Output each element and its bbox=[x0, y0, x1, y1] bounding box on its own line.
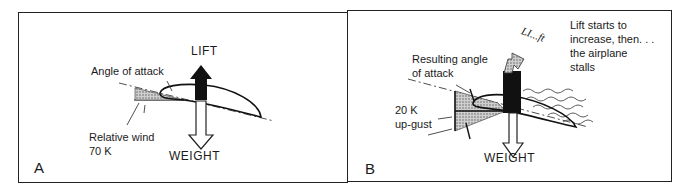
panel-a: LIFT Angle of attack Relative wind 70 K … bbox=[18, 12, 348, 183]
lift-note-line1: Lift starts to bbox=[570, 19, 627, 32]
lift-note-line4: stalls bbox=[570, 61, 595, 74]
relative-wind-speed: 70 K bbox=[89, 145, 112, 158]
gust-label: up-gust bbox=[395, 118, 432, 131]
weight-arrow bbox=[189, 101, 213, 149]
angle-of-attack-label: Angle of attack bbox=[91, 65, 164, 78]
panel-letter-a: A bbox=[34, 161, 44, 174]
resulting-angle-line1: Resulting angle bbox=[412, 53, 488, 66]
lift-fading-arrow bbox=[504, 53, 524, 73]
resulting-angle-line2: of attack bbox=[412, 67, 454, 80]
lift-note-line2: increase, then. . . bbox=[570, 33, 654, 46]
gust-speed-label: 20 K bbox=[395, 104, 418, 117]
airfoil bbox=[160, 84, 261, 117]
lift-label: LIFT bbox=[191, 45, 218, 58]
weight-label: WEIGHT bbox=[484, 152, 535, 165]
weight-label: WEIGHT bbox=[169, 150, 220, 163]
lift-bar bbox=[503, 71, 521, 113]
lift-arrow bbox=[190, 65, 212, 100]
panel-b: LI...ft Lift starts to increase, then. .… bbox=[347, 10, 672, 182]
relative-wind-label: Relative wind bbox=[89, 131, 154, 144]
panel-letter-b: B bbox=[365, 162, 375, 175]
lift-note-line3: the airplane bbox=[570, 47, 628, 60]
